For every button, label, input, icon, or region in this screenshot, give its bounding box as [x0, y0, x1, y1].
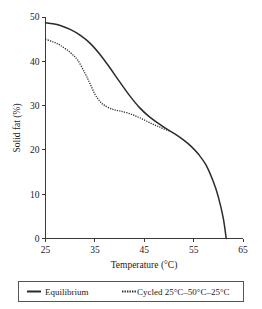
x-tick-label: 55 [189, 245, 199, 255]
y-tick-label: 0 [35, 234, 40, 244]
legend-label-cycled: Cycled 25°C–50°C–25°C [137, 287, 230, 297]
chart-legend: Equilibrium Cycled 25°C–50°C–25°C [19, 282, 244, 302]
x-tick-label: 35 [90, 245, 100, 255]
solid-fat-vs-temperature-chart: 01020304050 2535455565 Solid fat (%) Tem… [0, 0, 262, 309]
y-axis-ticks: 01020304050 [30, 12, 46, 244]
y-tick-label: 10 [30, 190, 40, 200]
y-tick-label: 20 [30, 145, 40, 155]
axes-group [46, 17, 244, 239]
chart-figure: 01020304050 2535455565 Solid fat (%) Tem… [0, 0, 262, 309]
y-tick-label: 50 [30, 12, 40, 22]
y-tick-label: 40 [30, 57, 40, 67]
x-axis-ticks: 2535455565 [41, 239, 248, 255]
x-axis-title: Temperature (°C) [111, 260, 178, 271]
series-group [46, 23, 227, 239]
x-tick-label: 65 [238, 245, 248, 255]
y-tick-label: 30 [30, 101, 40, 111]
x-tick-label: 45 [140, 245, 150, 255]
legend-label-equilibrium: Equilibrium [45, 287, 89, 297]
y-axis-title: Solid fat (%) [12, 103, 23, 152]
x-tick-label: 25 [41, 245, 51, 255]
